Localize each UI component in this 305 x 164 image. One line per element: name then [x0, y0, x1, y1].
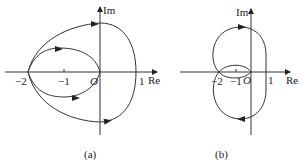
tick-label-minus1-a: −1 — [58, 75, 70, 87]
caption-b: (b) — [215, 148, 228, 161]
arrow-icon — [55, 46, 63, 52]
panel-a: Im Re −2 −1 1 O (a) — [5, 4, 160, 161]
panel-b: Im Re −2 −1 1 O (b) — [180, 6, 298, 161]
arrow-icon — [237, 116, 245, 122]
tick-label-minus2-b: −2 — [211, 75, 223, 87]
origin-label-a: O — [90, 75, 98, 87]
im-label-a: Im — [103, 4, 116, 16]
re-label-a: Re — [148, 74, 160, 86]
arrow-icon — [104, 117, 113, 124]
im-label-b: Im — [236, 6, 249, 18]
arrow-icon — [238, 24, 246, 30]
arrow-icon — [91, 21, 99, 27]
arrow-icon — [72, 95, 80, 101]
origin-label-b: O — [243, 74, 251, 86]
re-label-b: Re — [286, 74, 298, 86]
tick-label-minus1-b: −1 — [230, 75, 242, 87]
tick-label-1-b: 1 — [268, 74, 274, 86]
tick-label-minus2-a: −2 — [15, 75, 27, 87]
nyquist-diagrams: Im Re −2 −1 1 O (a) Im Re −2 −1 1 O (b) — [0, 0, 305, 164]
caption-a: (a) — [84, 148, 97, 161]
tick-label-1-a: 1 — [139, 75, 145, 87]
